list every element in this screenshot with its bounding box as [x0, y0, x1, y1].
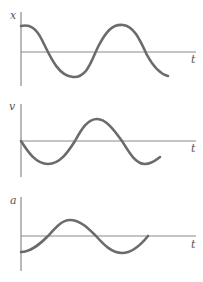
velocity-graph: v t [9, 100, 196, 177]
v-axis-label: v [9, 100, 16, 113]
x-panel-t-label: t [191, 53, 196, 66]
a-panel-t-label: t [191, 238, 196, 251]
v-panel-t-label: t [191, 142, 196, 155]
position-curve [21, 25, 168, 77]
acceleration-graph: a t [10, 194, 196, 271]
x-axis-label: x [10, 9, 17, 22]
position-graph: x t [10, 9, 196, 86]
a-axis-label: a [10, 194, 17, 207]
motion-graphs: x t v t a t [0, 0, 203, 282]
